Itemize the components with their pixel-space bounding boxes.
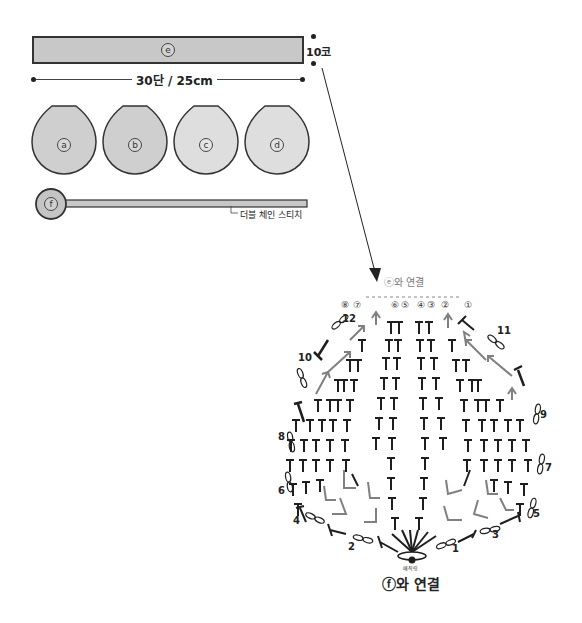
chart-bottom-label: ⓕ와 연결 [382, 573, 440, 593]
round-number-11: 11 [497, 325, 511, 336]
crochet-chart: 1 2 3 4 5 6 7 8 9 10 11 12 [0, 0, 582, 623]
round-number-5: 5 [533, 508, 540, 519]
round-number-9: 9 [540, 409, 547, 420]
round-number-8: 8 [278, 431, 285, 442]
round-number-4: 4 [293, 515, 300, 526]
center-stitch-columns [372, 322, 447, 530]
round-number-10: 10 [298, 352, 312, 363]
round-number-1: 1 [452, 543, 459, 554]
round-number-2: 2 [348, 541, 355, 552]
round-number-3: 3 [492, 529, 499, 540]
right-stitch-columns [436, 314, 545, 550]
round-number-6: 6 [278, 485, 285, 496]
round-number-7: 7 [545, 462, 552, 473]
round-number-12: 12 [342, 313, 356, 324]
magic-ring-start [392, 530, 436, 564]
magic-ring-label: 매직링 [403, 564, 418, 571]
left-stitch-columns [285, 312, 398, 552]
